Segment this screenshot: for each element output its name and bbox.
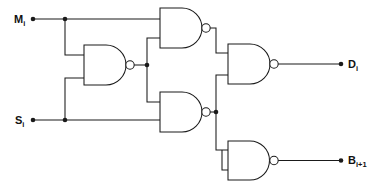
wire-n3-to-nand5: [216, 112, 228, 150]
junction-dot-nand3-output: [214, 110, 219, 115]
nand-gate-3-bubble: [202, 108, 210, 116]
wire-n1-spine-down: [147, 65, 160, 102]
output-terminal-di-dot: [339, 62, 344, 67]
input-label-mi-subscript: i: [23, 19, 25, 28]
output-label-borrow: Bi+1: [348, 154, 367, 169]
junction-dot-si: [63, 118, 68, 123]
wire-si-branch-to-nand1: [65, 78, 84, 120]
wire-n3-to-nand5-second-input: [222, 150, 228, 170]
input-label-si-subscript: i: [22, 120, 24, 129]
wire-mi-branch-to-nand1: [65, 19, 84, 55]
output-label-borrow-base: B: [348, 154, 356, 166]
nand-gate-4-body: [228, 44, 270, 84]
input-label-si-base: S: [15, 114, 22, 126]
input-terminal-si-dot: [31, 118, 36, 123]
nand-gate-5-body: [228, 141, 270, 180]
nand-gate-3-body: [160, 92, 202, 132]
output-label-di-subscript: i: [356, 64, 358, 73]
wire-n3-to-nand4: [216, 75, 228, 112]
junction-dot-mi: [63, 17, 68, 22]
nand-gate-1-bubble: [126, 61, 134, 69]
input-label-mi-base: M: [14, 13, 23, 25]
input-terminal-mi-dot: [31, 17, 36, 22]
output-label-borrow-subscript: i+1: [356, 160, 367, 169]
output-terminal-borrow-dot: [339, 158, 344, 163]
input-label-si: Si: [15, 114, 24, 129]
logic-diagram: Mi Si Di Bi+1: [0, 0, 372, 189]
nand-gate-5-bubble: [270, 156, 278, 164]
nand-gate-4-bubble: [270, 60, 278, 68]
circuit-canvas: Mi Si Di Bi+1: [0, 0, 372, 189]
wire-nand2-output-to-nand4: [210, 28, 228, 53]
nand-gate-2-bubble: [202, 24, 210, 32]
input-label-mi: Mi: [14, 13, 25, 28]
nand-gate-1-body: [84, 45, 126, 85]
junction-dot-nand1-output: [145, 63, 150, 68]
output-label-di-base: D: [348, 58, 356, 70]
wire-n1-spine: [147, 38, 160, 65]
nand-gate-2-body: [160, 8, 202, 48]
output-label-di: Di: [348, 58, 358, 73]
